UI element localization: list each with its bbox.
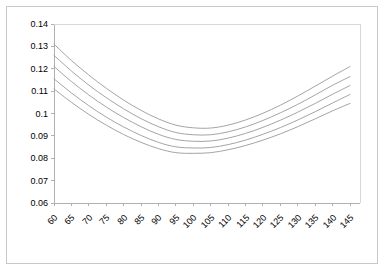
chart-figure: 0.060.070.080.090.10.110.120.130.14 6065… — [0, 0, 387, 276]
series-line-curve-5 — [54, 89, 350, 153]
y-tick-label: 0.09 — [10, 131, 48, 141]
chart-series-lines — [54, 44, 350, 153]
y-tick-label: 0.06 — [10, 198, 48, 208]
y-tick-label: 0.13 — [10, 41, 48, 51]
y-tick-label: 0.1 — [10, 109, 48, 119]
y-tick-label: 0.07 — [10, 176, 48, 186]
y-tick-label: 0.12 — [10, 64, 48, 74]
series-line-curve-3 — [54, 67, 350, 142]
series-line-curve-4 — [54, 79, 350, 148]
series-line-curve-1 — [54, 44, 350, 128]
y-tick-label: 0.11 — [10, 86, 48, 96]
chart-tick-marks — [51, 24, 350, 206]
y-tick-label: 0.14 — [10, 19, 48, 29]
y-tick-label: 0.08 — [10, 153, 48, 163]
